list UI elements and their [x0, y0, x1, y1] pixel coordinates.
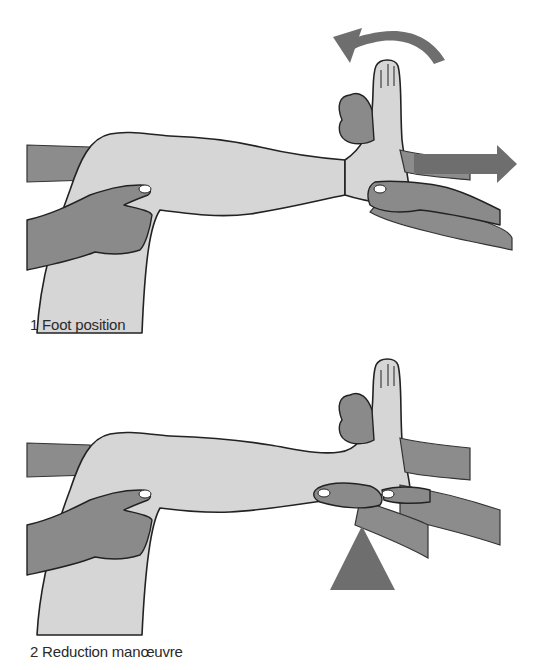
- panel-reduction-manoeuvre: 2 Reduction manœuvre: [0, 340, 540, 670]
- panel-foot-position: 1 Foot position: [0, 0, 540, 340]
- thumbnail-heel: [374, 185, 386, 193]
- thumbnail-ankle-left: [318, 489, 330, 497]
- thumbnail-knee: [139, 185, 151, 193]
- caption-panel-1: 1 Foot position: [30, 316, 125, 333]
- caption-panel-2: 2 Reduction manœuvre: [30, 643, 183, 660]
- thumbnail-knee: [139, 490, 151, 498]
- reduction-manoeuvre-illustration: [0, 340, 540, 670]
- curved-rotation-arrow-icon: [333, 28, 445, 64]
- operator-arm-right: [400, 438, 470, 480]
- fist-holding-foot: [339, 93, 374, 143]
- foot-position-illustration: [0, 0, 540, 340]
- fist-holding-foot: [339, 393, 374, 443]
- thumbnail-ankle-right: [382, 490, 394, 498]
